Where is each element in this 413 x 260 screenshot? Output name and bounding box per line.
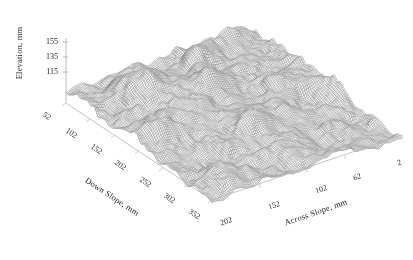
across-slope-axis-line: [212, 135, 402, 200]
down-slope-tick-352: [208, 200, 212, 203]
down-slope-tick-302: [184, 184, 188, 187]
surface-plot-figure: Elevation, mm 155 135 115 Down Slope, mm…: [0, 0, 413, 260]
elevation-tick-label-115: 115: [34, 67, 58, 76]
axis-frame: [0, 0, 413, 260]
elevation-tick-label-135: 135: [34, 52, 58, 61]
down-slope-tick-252: [159, 168, 163, 171]
down-slope-tick-102: [86, 119, 90, 122]
down-slope-tick-152: [111, 135, 115, 138]
down-slope-tick-202: [135, 151, 139, 154]
elevation-axis-label: Elevation, mm: [14, 13, 24, 93]
elevation-tick-label-155: 155: [34, 37, 58, 46]
down-slope-tick-52: [62, 103, 66, 106]
